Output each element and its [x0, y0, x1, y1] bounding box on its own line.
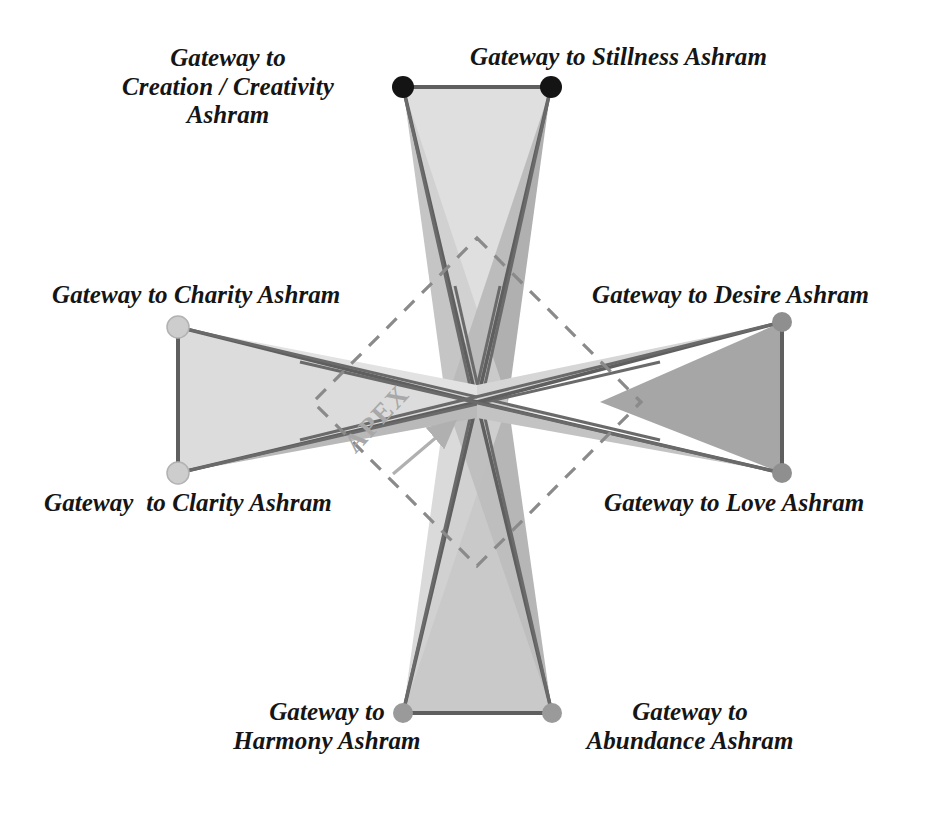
node-love[interactable] — [772, 463, 792, 483]
node-stillness[interactable] — [540, 76, 562, 98]
node-abundance[interactable] — [542, 703, 562, 723]
label-harmony-ashram: Gateway to Harmony Ashram — [212, 698, 442, 755]
node-clarity[interactable] — [167, 462, 189, 484]
left-light-triangle — [178, 327, 477, 473]
label-stillness-ashram: Gateway to Stillness Ashram — [470, 43, 830, 72]
label-charity-ashram: Gateway to Charity Ashram — [52, 281, 392, 310]
node-creation[interactable] — [392, 76, 414, 98]
node-desire[interactable] — [772, 312, 792, 332]
label-abundance-ashram: Gateway to Abundance Ashram — [560, 698, 820, 755]
label-creation-ashram: Gateway to Creation / Creativity Ashram — [68, 44, 388, 130]
diagram-canvas: Gateway to Creation / Creativity Ashram … — [0, 0, 947, 817]
node-charity[interactable] — [167, 316, 189, 338]
label-desire-ashram: Gateway to Desire Ashram — [592, 281, 942, 310]
label-love-ashram: Gateway to Love Ashram — [604, 489, 944, 518]
label-clarity-ashram: Gateway to Clarity Ashram — [44, 489, 404, 518]
